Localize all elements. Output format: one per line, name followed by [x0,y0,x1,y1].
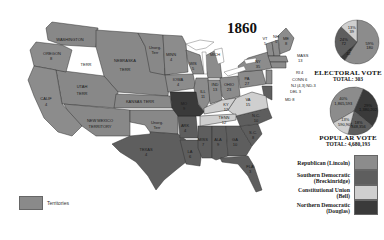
washington-territory [46,22,98,47]
legend-item-northern-democratic: Northern Democratic(Douglas) [268,200,378,215]
callout-label: DEL 3 [290,89,302,94]
callout-label: NJ (4,3) ND-3 [291,83,316,88]
legend-label: Southern Democratic [297,172,350,178]
state-label: CALIF [40,96,52,101]
state-label: 23 [227,87,232,92]
state-label: Terr [154,125,162,130]
state-alabama [212,126,228,160]
state-label: 12 [222,120,227,125]
pie-votes-label: 180 [366,45,373,50]
legend-sublabel: (Douglas) [297,208,350,214]
state-label: NEW MEXICO [87,118,113,123]
legend-item-southern-democratic: Southern Democratic(Breckinridge) [268,170,378,185]
state-label: TERR [81,62,92,67]
state-label: 15 [246,102,251,107]
state-pennsylvania [238,70,266,88]
small-state-callouts: MASS13RI 4CONN 6NJ (4,3) ND-3DEL 3MD 8 [285,53,316,102]
callout-label: MD 8 [285,97,295,102]
legend-swatch-republican [354,155,378,170]
legend-swatch-constitutional-union [354,185,378,200]
legend-item-republican: Republican (Lincoln) [268,155,378,170]
callout-label: 13 [298,58,303,63]
popular-vote-pie-chart: 40%1,865,59329%1,380,20218%848,35613%590… [330,87,378,135]
pie-votes-label: 848,356 [351,124,366,129]
pie-votes-label: 1,865,593 [334,101,353,106]
state-label: 12 [224,107,229,112]
state-connecticut-ri [270,62,286,68]
state-label: MICH [210,52,220,57]
legend-swatch-southern-democratic [354,170,378,185]
pie-votes-label: 39 [350,29,355,34]
state-label: WASHINGTON [56,37,83,42]
state-label: 10 [233,142,238,147]
state-label: 35 [256,64,261,69]
electoral-vote-pie-chart: 59%1804%1224%7213%39 [335,20,379,64]
state-label: NEBRASKA [114,58,136,63]
party-legend: Republican (Lincoln) Southern Democratic… [268,155,378,215]
legend-sublabel: (Bell) [298,193,350,199]
lake-superior [186,40,214,50]
state-label: 10 [254,118,259,123]
legend-label: Republican (Lincoln) [297,160,350,166]
legend-sublabel: (Breckinridge) [297,178,350,184]
territories-legend: Territories [19,196,69,210]
pie-votes-label: 1,380,202 [359,107,378,112]
state-new-jersey [266,70,272,84]
state-label: UTAH [77,84,88,89]
pie-votes-label: 72 [342,41,347,46]
state-label: TERRITORY [89,124,112,129]
state-texas [112,132,186,190]
state-mississippi [198,126,212,158]
pie-votes-label: 12 [346,51,351,56]
state-florida [220,156,262,192]
legend-item-constitutional-union: Constitutional Union(Bell) [268,185,378,200]
popular-vote-caption: POPULAR VOTE TOTAL: 4,680,193 [313,135,383,147]
legend-swatch-northern-democratic [354,200,378,215]
state-label: Terr [152,50,160,55]
legend-swatch-territories [19,196,43,210]
state-massachusetts [268,56,288,62]
callout-label: RI 4 [296,70,304,75]
state-label: TERR [120,67,131,72]
legend-label: Northern Democratic [297,202,350,208]
pie-votes-label: 590,901 [338,122,353,127]
state-label: 27 [245,81,250,86]
legend-label-territories: Territories [47,200,69,206]
state-label: 13 [213,87,218,92]
callout-label: CONN 6 [292,77,308,82]
state-label: TERR [77,91,88,96]
map-title: 1860 [227,20,257,37]
electoral-vote-caption: ELECTORAL VOTE TOTAL: 303 [313,70,383,82]
state-label: KANSAS TERR [126,99,154,104]
legend-label: Constitutional Union [298,187,350,193]
